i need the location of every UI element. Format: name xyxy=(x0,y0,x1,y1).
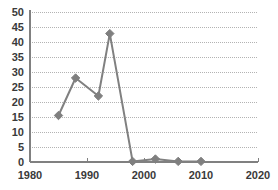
y-tick-label: 50 xyxy=(12,6,24,18)
axes xyxy=(30,10,258,162)
data-point-marker[interactable] xyxy=(106,29,114,37)
y-tick-label: 45 xyxy=(12,21,24,33)
data-point-marker[interactable] xyxy=(54,111,62,119)
x-tick-labels: 19801990200020102020 xyxy=(18,169,270,181)
x-tick-label: 2020 xyxy=(246,169,270,181)
y-tick-label: 25 xyxy=(12,81,24,93)
chart-canvas: 0510152025303540455019801990200020102020 xyxy=(0,0,278,190)
series-line xyxy=(59,34,202,162)
y-tick-label: 15 xyxy=(12,111,24,123)
y-tick-label: 30 xyxy=(12,66,24,78)
y-tick-label: 5 xyxy=(18,141,24,153)
y-tick-label: 20 xyxy=(12,96,24,108)
x-tick-label: 1980 xyxy=(18,169,42,181)
line-chart: 0510152025303540455019801990200020102020 xyxy=(0,0,278,190)
data-series xyxy=(54,29,205,165)
y-tick-label: 40 xyxy=(12,36,24,48)
data-point-marker[interactable] xyxy=(128,157,136,165)
x-tick-label: 1990 xyxy=(75,169,99,181)
y-tick-labels: 05101520253035404550 xyxy=(12,6,24,168)
x-tick-label: 2000 xyxy=(132,169,156,181)
x-tick-label: 2010 xyxy=(189,169,213,181)
y-tick-label: 35 xyxy=(12,51,24,63)
y-tick-label: 10 xyxy=(12,126,24,138)
y-tick-label: 0 xyxy=(18,156,24,168)
data-point-marker[interactable] xyxy=(174,157,182,165)
data-point-marker[interactable] xyxy=(197,157,205,165)
gridlines xyxy=(30,12,258,147)
